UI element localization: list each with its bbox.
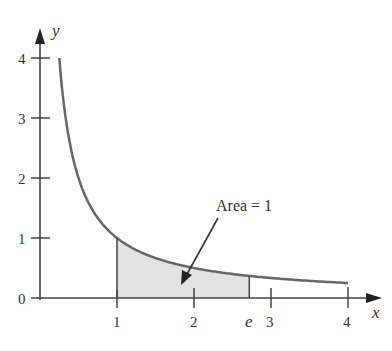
y-tick-4: 4 xyxy=(18,51,26,67)
shaded-area xyxy=(117,238,249,298)
x-tick-3: 3 xyxy=(266,314,274,330)
x-tick-2: 2 xyxy=(190,314,198,330)
plot-svg: 4 3 2 1 0 1 2 e 3 4 x y Area = 1 xyxy=(0,0,392,351)
y-tick-1: 1 xyxy=(18,231,26,247)
x-tick-4: 4 xyxy=(343,314,351,330)
y-axis-label: y xyxy=(50,21,60,40)
y-tick-0: 0 xyxy=(18,291,26,307)
y-tick-2: 2 xyxy=(18,171,26,187)
area-annotation: Area = 1 xyxy=(216,197,272,214)
x-tick-e: e xyxy=(245,312,253,331)
curve-1-over-x xyxy=(59,58,348,283)
y-axis-arrow-icon xyxy=(35,28,45,44)
graph: 4 3 2 1 0 1 2 e 3 4 x y Area = 1 xyxy=(0,0,392,351)
x-axis-label: x xyxy=(371,303,380,322)
x-axis-arrow-icon xyxy=(366,293,382,303)
x-tick-1: 1 xyxy=(113,314,121,330)
annotation-arrow xyxy=(186,218,218,276)
y-tick-3: 3 xyxy=(18,111,26,127)
